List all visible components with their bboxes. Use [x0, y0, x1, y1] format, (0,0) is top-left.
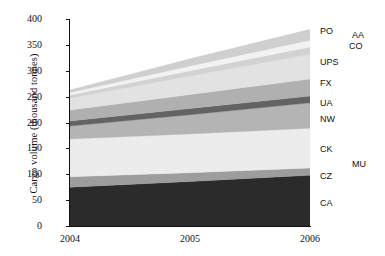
series-label-group: POAACOUPSFXUANWCKMUCZCA: [0, 0, 385, 256]
series-label-ua: UA: [320, 99, 333, 108]
series-label-aa: AA: [352, 31, 364, 40]
series-label-nw: NW: [320, 115, 335, 124]
series-label-ups: UPS: [320, 58, 339, 67]
series-label-fx: FX: [320, 79, 332, 88]
cargo-volume-area-chart: Cargo volume (thousand tonnes) 050100150…: [0, 0, 385, 256]
series-label-po: PO: [320, 27, 333, 36]
series-label-mu: MU: [352, 160, 366, 169]
series-label-cz: CZ: [320, 172, 332, 181]
series-label-ck: CK: [320, 145, 333, 154]
series-label-co: CO: [349, 42, 363, 51]
series-label-ca: CA: [320, 199, 333, 208]
